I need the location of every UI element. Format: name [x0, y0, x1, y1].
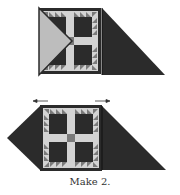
dark-setting-triangle-right: [102, 106, 166, 170]
dark-setting-triangle-left: [7, 106, 40, 170]
bottom-unit: [7, 105, 166, 171]
press-arrow-left-icon: [33, 100, 48, 103]
press-arrow-right-icon: [95, 100, 110, 103]
caption: Make 2.: [0, 176, 180, 187]
dark-setting-triangle-right: [102, 8, 165, 75]
top-unit: [39, 8, 165, 75]
quilt-diagram: [0, 0, 180, 195]
quilt-block: [40, 105, 102, 171]
